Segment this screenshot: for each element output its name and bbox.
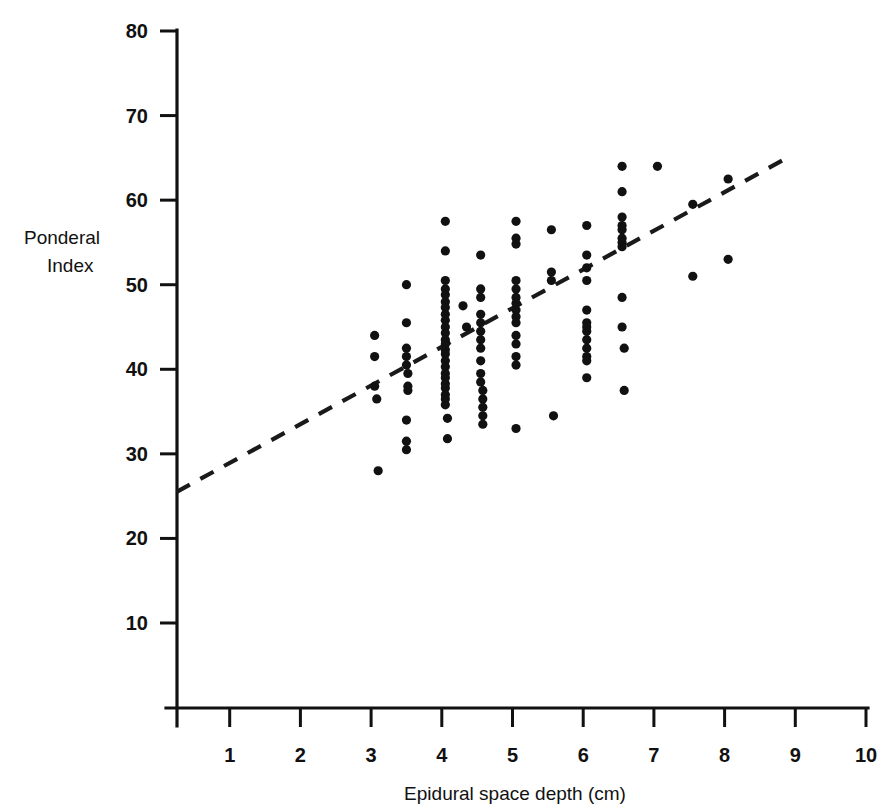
y-tick-label-group: 1020304050607080: [126, 20, 148, 634]
scatter-plot-figure: Ponderal Index Epidural space depth (cm)…: [0, 0, 890, 808]
data-point: [402, 360, 411, 369]
data-point: [688, 272, 697, 281]
data-point: [653, 162, 662, 171]
data-point: [478, 394, 487, 403]
y-tick-label-50: 50: [126, 274, 148, 296]
y-tick-label-60: 60: [126, 189, 148, 211]
data-point: [402, 352, 411, 361]
x-tick-group: [230, 708, 866, 727]
plot-canvas: Ponderal Index Epidural space depth (cm)…: [0, 0, 890, 808]
data-point: [547, 276, 556, 285]
x-tick-label-4: 4: [436, 744, 448, 766]
data-point: [724, 174, 733, 183]
data-point: [582, 221, 591, 230]
data-point: [370, 331, 379, 340]
x-tick-label-2: 2: [295, 744, 306, 766]
data-point: [478, 420, 487, 429]
data-point: [511, 360, 520, 369]
data-point: [511, 331, 520, 340]
data-point: [476, 310, 485, 319]
data-point: [402, 344, 411, 353]
data-point: [476, 284, 485, 293]
data-point: [476, 251, 485, 260]
data-point: [370, 352, 379, 361]
data-point: [476, 318, 485, 327]
x-axis-title: Epidural space depth (cm): [404, 783, 626, 804]
data-point: [547, 225, 556, 234]
data-point: [476, 344, 485, 353]
data-point: [549, 411, 558, 420]
y-tick-group: [160, 31, 177, 623]
data-point: [402, 318, 411, 327]
data-point-group: [370, 162, 733, 476]
data-point: [582, 344, 591, 353]
data-point: [582, 251, 591, 260]
data-point: [476, 335, 485, 344]
data-point: [476, 356, 485, 365]
data-point: [511, 284, 520, 293]
x-tick-label-1: 1: [224, 744, 235, 766]
x-tick-label-7: 7: [648, 744, 659, 766]
data-point: [476, 377, 485, 386]
data-point: [582, 335, 591, 344]
data-point: [511, 318, 520, 327]
data-point: [511, 217, 520, 226]
data-point: [476, 293, 485, 302]
data-point: [478, 411, 487, 420]
y-tick-label-70: 70: [126, 105, 148, 127]
data-point: [478, 386, 487, 395]
x-tick-label-10: 10: [855, 744, 877, 766]
y-axis-title-line1: Ponderal: [24, 227, 100, 248]
data-point: [441, 400, 450, 409]
data-point: [582, 373, 591, 382]
data-point: [372, 394, 381, 403]
data-point: [582, 276, 591, 285]
data-point: [403, 386, 412, 395]
data-point: [620, 344, 629, 353]
data-point: [582, 263, 591, 272]
data-point: [402, 415, 411, 424]
data-point: [547, 267, 556, 276]
data-point: [582, 305, 591, 314]
data-point: [458, 301, 467, 310]
x-tick-label-5: 5: [507, 744, 518, 766]
data-point: [374, 466, 383, 475]
data-point: [441, 276, 450, 285]
data-point: [617, 212, 626, 221]
data-point: [620, 386, 629, 395]
data-point: [511, 276, 520, 285]
data-point: [476, 369, 485, 378]
data-point: [617, 242, 626, 251]
data-point: [441, 217, 450, 226]
y-tick-label-20: 20: [126, 527, 148, 549]
data-point: [582, 327, 591, 336]
data-point: [511, 339, 520, 348]
data-point: [724, 255, 733, 264]
data-point: [443, 434, 452, 443]
y-tick-label-40: 40: [126, 358, 148, 380]
y-tick-label-80: 80: [126, 20, 148, 42]
y-axis-title-line2: Index: [47, 255, 94, 276]
x-tick-label-group: 12345678910: [224, 744, 877, 766]
data-point: [617, 322, 626, 331]
x-tick-label-3: 3: [366, 744, 377, 766]
data-point: [617, 162, 626, 171]
y-tick-label-30: 30: [126, 443, 148, 465]
data-point: [582, 356, 591, 365]
data-point: [443, 414, 452, 423]
data-point: [617, 225, 626, 234]
data-point: [511, 352, 520, 361]
data-point: [402, 280, 411, 289]
x-tick-label-8: 8: [719, 744, 730, 766]
data-point: [617, 187, 626, 196]
data-point: [476, 327, 485, 336]
data-point: [688, 200, 697, 209]
data-point: [441, 246, 450, 255]
data-point: [511, 424, 520, 433]
data-point: [511, 240, 520, 249]
x-tick-label-9: 9: [790, 744, 801, 766]
data-point: [478, 403, 487, 412]
data-point: [402, 445, 411, 454]
data-point: [402, 437, 411, 446]
data-point: [403, 369, 412, 378]
